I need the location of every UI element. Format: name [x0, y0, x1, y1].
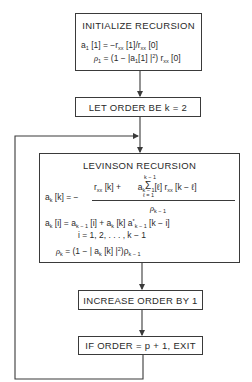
levinson-eq2: ak [i] = ak − 1 [i] + ak [k] a*k − 1 [k …: [45, 218, 170, 229]
levinson-lhs: ak [k] = −: [45, 192, 78, 203]
levinson-title: LEVINSON RECURSION: [40, 160, 239, 171]
exit-box: IF ORDER = p + 1, EXIT: [78, 336, 203, 355]
sigma-bottom: ℓ = 1: [143, 192, 154, 198]
init-eq2: ρ1 = (1 − |a1[1] |2) rxx [0]: [94, 53, 181, 64]
increase-order-box: INCREASE ORDER BY 1: [78, 290, 203, 310]
levinson-box: LEVINSON RECURSION ak [k] = − rxx [k] + …: [39, 153, 240, 263]
let-order-title: LET ORDER BE k = 2: [76, 102, 200, 113]
init-eq1: a1 [1] = −rxx [1]/rxx [0]: [81, 40, 158, 51]
init-title: INITIALIZE RECURSION: [76, 20, 201, 31]
levinson-eq3: i = 1, 2, . . . , k − 1: [78, 230, 146, 240]
sigma-symbol: Σ: [145, 180, 151, 191]
fraction-bar: [92, 200, 235, 201]
levinson-eq4: ρk = (1 − | ak [k] |2)ρk − 1: [56, 246, 141, 257]
exit-title: IF ORDER = p + 1, EXIT: [79, 340, 202, 351]
levinson-denominator: ρk − 1: [150, 203, 166, 214]
let-order-box: LET ORDER BE k = 2: [75, 97, 201, 117]
init-box: INITIALIZE RECURSION a1 [1] = −rxx [1]/r…: [75, 13, 202, 71]
increase-order-title: INCREASE ORDER BY 1: [79, 295, 202, 306]
